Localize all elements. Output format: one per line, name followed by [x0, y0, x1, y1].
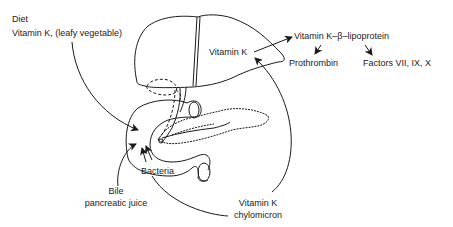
- bacteria-arrow-1: [142, 148, 146, 162]
- diet-heading: Diet: [12, 14, 28, 24]
- diet-arrow: [72, 42, 138, 130]
- bacteria-arrow-2: [146, 146, 152, 160]
- liver-vitamin-k-label: Vitamin K: [209, 47, 247, 57]
- factors-label: Factors VII, IX, X: [363, 58, 431, 68]
- to-factors-arrow: [365, 45, 372, 55]
- pancreatic-juice-label: pancreatic juice: [78, 198, 154, 208]
- diet-source-label: Vitamin K, (leafy vegetable): [12, 28, 122, 38]
- chylomicron-vitk-label: Vitamin K: [228, 198, 288, 208]
- bile-label: Bile: [84, 186, 148, 196]
- pancreas-shape: [158, 109, 269, 144]
- prothrombin-label: Prothrombin: [289, 58, 338, 68]
- chylomicron-pathway: [152, 176, 228, 216]
- lipoprotein-label: Vitamin K–β–lipoprotein: [294, 31, 389, 41]
- vitamin-k-diagram: Diet Vitamin K, (leafy vegetable) Vitami…: [0, 0, 453, 227]
- vitk-to-lipoprotein-arrow: [254, 37, 292, 52]
- to-prothrombin-arrow: [315, 45, 321, 54]
- bacteria-label: Bacteria: [141, 166, 174, 176]
- gallbladder-shape: [147, 79, 181, 100]
- chylomicron-label: chylomicron: [228, 210, 288, 220]
